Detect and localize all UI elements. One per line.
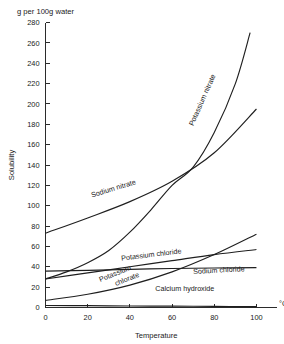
chart-canvas: g per 100g water 02040608010012014016018…	[0, 0, 284, 344]
y-tick-label: 160	[27, 140, 39, 149]
series-curve	[46, 305, 257, 306]
y-tick-label: 180	[27, 120, 39, 129]
y-tick-label: 260	[27, 39, 39, 48]
x-tick-label: 60	[168, 313, 176, 322]
x-tick-label: 40	[126, 313, 134, 322]
y-tick-label: 120	[27, 181, 39, 190]
x-axis-title: Temperature	[135, 331, 178, 340]
y-tick-label: 100	[27, 201, 39, 210]
y-tick-label: 60	[31, 242, 39, 251]
y-tick-label: 80	[31, 222, 39, 231]
y-tick-label: 240	[27, 59, 39, 68]
series-curve	[46, 33, 251, 279]
y-tick-label: 0	[35, 303, 39, 312]
y-tick-label: 20	[31, 283, 39, 292]
x-axis-unit-label: °C	[279, 299, 284, 308]
y-tick-label: 200	[27, 100, 39, 109]
series-label: Calcium hydroxide	[155, 284, 214, 293]
series-label: Sodium nitrate	[90, 177, 137, 199]
series-curve	[46, 109, 257, 233]
axis-titles-group: TemperatureSolubility°C	[7, 150, 284, 340]
series-label: Sodium chloride	[193, 264, 245, 276]
x-tick-label: 80	[210, 313, 218, 322]
series-label: Potassium nitrate	[187, 73, 218, 127]
y-tick-label: 40	[31, 262, 39, 271]
x-tick-label: 100	[250, 313, 262, 322]
y-tick-label: 280	[27, 18, 39, 27]
x-tick-label: 0	[43, 313, 47, 322]
header-note: g per 100g water	[17, 7, 74, 16]
y-tick-label: 140	[27, 161, 39, 170]
y-axis-title: Solubility	[7, 150, 16, 181]
y-tick-label: 220	[27, 79, 39, 88]
x-tick-label: 20	[84, 313, 92, 322]
header-note-group: g per 100g water	[17, 7, 74, 16]
solubility-curves-figure: g per 100g water 02040608010012014016018…	[0, 0, 284, 344]
series-labels-group: Potassium nitrateSodium nitratePotassium…	[90, 73, 245, 293]
